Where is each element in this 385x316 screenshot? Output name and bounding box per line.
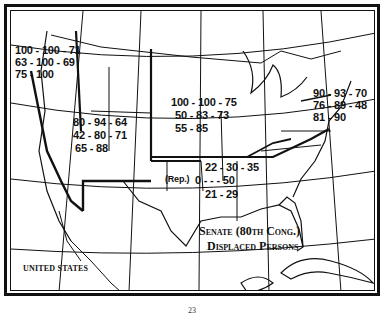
midwest-row-3: 55 - 85	[175, 123, 208, 134]
northeast-row-1: 90 - 93 - 70	[313, 88, 367, 99]
great-lakes	[243, 51, 307, 97]
south-row-3: 21 - 29	[205, 189, 238, 200]
pacific-row-3: 75 - 100	[15, 69, 54, 80]
longitude-line	[199, 11, 201, 291]
region-border-west	[31, 71, 83, 211]
south-row-1: 22 - 30 - 35	[205, 162, 259, 173]
longitude-line	[129, 11, 141, 291]
island	[241, 277, 273, 291]
pacific-row-2: 63 - 100 - 69	[15, 57, 75, 68]
region-border-ohio	[247, 139, 291, 157]
cuba-island	[281, 259, 373, 283]
pacific-row-1: 100 - 100 - 71	[15, 45, 81, 56]
page-number: 23	[188, 306, 196, 315]
south-row-2: 0 - - - 50	[195, 175, 235, 186]
longitude-line	[321, 11, 341, 291]
northeast-row-3: 81 - 90	[313, 112, 346, 123]
latitude-line	[11, 171, 375, 188]
map-frame: 100 - 100 - 71 63 - 100 - 69 75 - 100 80…	[10, 10, 375, 291]
midwest-row-2: 50 - 83 - 73	[175, 110, 229, 121]
northeast-row-2: 76 - 89 - 48	[313, 100, 367, 111]
map-subtitle: Displaced Persons	[207, 240, 298, 252]
midwest-row-1: 100 - 100 - 75	[171, 97, 237, 108]
latitude-line	[11, 239, 375, 253]
map-title: Senate (80th Cong.)	[199, 225, 300, 237]
mountain-row-3: 65 - 88	[75, 143, 108, 154]
country-label: United States	[23, 265, 88, 273]
mountain-row-2: 42 - 80 - 71	[73, 130, 127, 141]
south-rep-note: (Rep.)	[165, 175, 189, 184]
northern-border	[51, 35, 341, 63]
mountain-row-1: 80 - 94 - 64	[73, 117, 127, 128]
region-border-mountain-south	[83, 181, 151, 211]
